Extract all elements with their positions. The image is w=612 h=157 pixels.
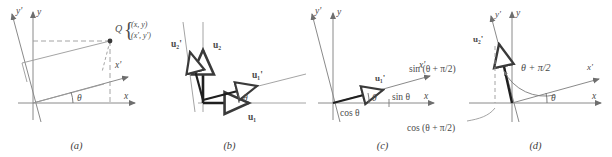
rotation-figure: y' y x' x θ Q { (x, y) (x', y') (a) <box>0 0 612 157</box>
vector-label-u1-prime: u₁' <box>252 70 263 80</box>
y-prime-axis <box>312 14 340 122</box>
panel-c: y' y x' x θ u₁' cos θ sin θ (c) <box>306 0 459 157</box>
angle-theta-label: θ <box>372 93 377 103</box>
axis-label-x: x <box>591 91 597 101</box>
axis-label-y: y <box>515 8 521 18</box>
axis-label-y: y <box>36 7 42 17</box>
big-angle-label: θ + π/2 <box>521 62 550 73</box>
panel-a: y' y x' x θ Q { (x, y) (x', y') (a) <box>0 0 153 157</box>
panel-caption-d: (d) <box>459 140 612 151</box>
panel-b: u₁ u₂ u₁' u₂' θ (b) <box>153 0 306 157</box>
axis-label-x: x <box>423 91 429 101</box>
guide-rotated-c <box>102 41 110 72</box>
axis-label-x-prime: x' <box>586 62 594 72</box>
cos-label: cos (θ + π/2) <box>407 123 455 134</box>
axis-label-y-prime: y' <box>15 6 23 16</box>
sin-label: sin (θ + π/2) <box>409 64 456 75</box>
y-prime-axis <box>12 14 41 122</box>
vector-label-u2-prime: u₂' <box>473 34 483 44</box>
angle-arc <box>238 93 239 103</box>
panel-caption-b: (b) <box>153 140 306 151</box>
vector-label-u2-prime: u₂' <box>171 39 182 49</box>
vector-label-u1-prime: u₁' <box>375 73 385 83</box>
vector-label-u2: u₂ <box>213 40 221 50</box>
guide-rotated-d <box>33 84 104 103</box>
vector-u1-prime <box>203 86 257 100</box>
sin-theta-label: sin θ <box>392 92 410 102</box>
vector-label-u1: u₁ <box>248 112 256 122</box>
coords-rotated: (x', y') <box>131 31 151 40</box>
angle-theta-label: θ <box>77 93 82 103</box>
vector-u2-prime <box>190 52 203 100</box>
point-label-q: Q <box>115 23 123 34</box>
angle-theta-label: θ <box>243 93 248 103</box>
cos-pointer <box>467 108 495 121</box>
coords-primary: (x, y) <box>131 20 148 29</box>
panel-caption-a: (a) <box>0 140 153 151</box>
guide-rotated-a <box>22 41 110 63</box>
angle-arc <box>546 93 547 103</box>
axis-label-y: y <box>336 7 342 17</box>
angle-arc <box>71 92 73 103</box>
axis-label-x-prime: x' <box>114 60 122 70</box>
angle-theta-label: θ <box>551 93 556 103</box>
cos-theta-label: cos θ <box>340 108 360 118</box>
panel-d: y' y x' x θ u₂' θ + π/2 sin (θ + π/2) co… <box>459 0 612 157</box>
axis-label-x: x <box>123 91 129 101</box>
axis-label-y-prime: y' <box>494 9 502 19</box>
panel-caption-c: (c) <box>306 140 459 151</box>
point-q <box>108 39 113 44</box>
axis-label-y-prime: y' <box>314 6 322 16</box>
